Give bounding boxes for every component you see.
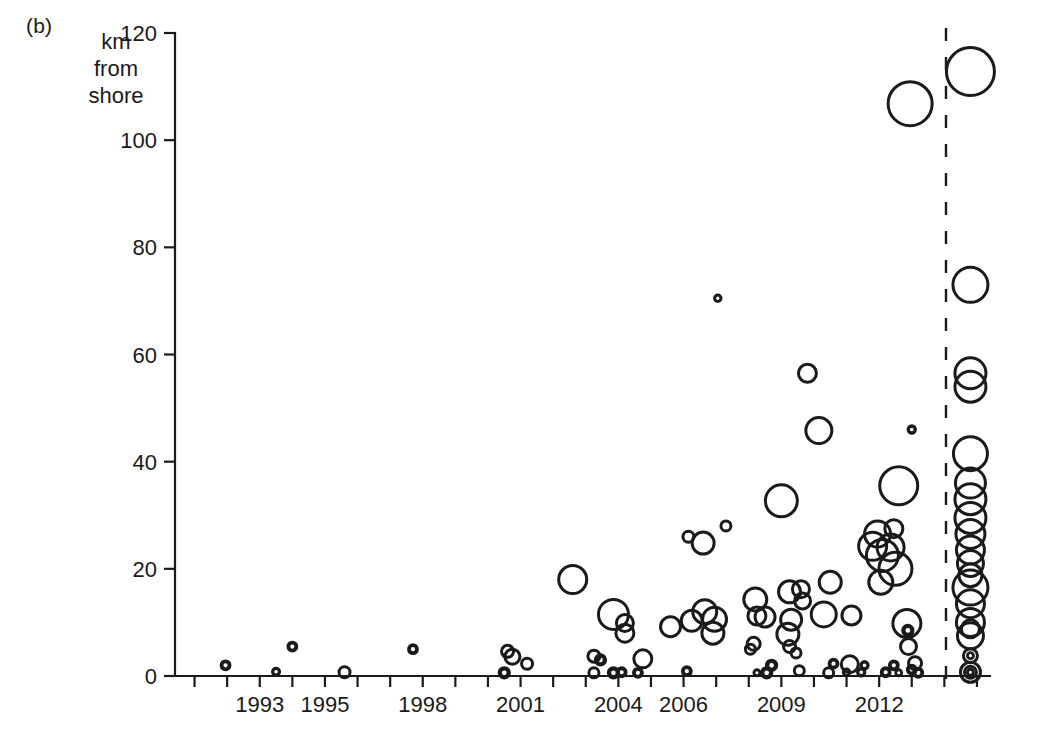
data-point-bubble [967,669,973,675]
x-tick-label: 2009 [757,692,806,717]
y-tick-label: 80 [133,235,157,260]
data-point-bubble [806,418,832,444]
data-point-bubble [811,602,836,627]
data-point-bubble [890,661,898,669]
data-point-bubble [830,660,838,668]
data-point-bubble [914,669,922,677]
x-tick-label: 1995 [300,692,349,717]
data-point-bubble [589,668,599,678]
y-tick-label: 100 [120,128,157,153]
x-tick-label: 1993 [235,692,284,717]
data-point-bubble [762,668,771,677]
x-tick-label: 2006 [659,692,708,717]
data-point-bubble [967,653,973,659]
data-point-bubble [715,295,721,301]
data-point-bubble [765,485,797,517]
data-point-bubble [824,668,834,678]
data-point-bubble [596,655,605,664]
data-point-bubble [616,624,634,642]
y-tick-label: 0 [145,664,157,689]
data-point-bubble [953,437,987,471]
data-point-bubble [955,502,986,533]
data-point-bubble [661,617,681,637]
x-tick-label: 2004 [594,692,643,717]
data-point-bubble [781,609,802,630]
data-point-bubble [946,48,994,96]
data-point-bubble [903,626,912,635]
data-point-bubble [880,467,918,505]
data-point-bubble [896,670,902,676]
data-point-bubble [901,639,917,655]
x-tick-label: 2012 [855,692,904,717]
data-point-bubble [721,521,731,531]
data-point-bubble [791,648,801,658]
y-axis-ticks: 020406080100120 [120,21,175,689]
data-point-bubble [702,622,724,644]
figure-panel-b: (b) km from shore 020406080100120 199319… [0,0,1042,729]
data-point-bubble [888,82,932,126]
data-point-bubble [955,358,986,389]
data-point-bubble [692,532,714,554]
y-tick-label: 40 [133,450,157,475]
data-point-bubble [409,645,417,653]
data-point-bubble [953,267,988,302]
data-point-bubble [798,364,816,382]
x-axis-ticks: 19931995199820012004200620092012 [195,676,977,717]
data-point-bubble [273,668,280,675]
data-point-bubble [955,371,986,402]
data-point-bubble [559,566,587,594]
data-point-bubble [779,581,801,603]
data-point-bubble [858,669,865,676]
data-point-bubble [908,426,915,433]
data-point-bubble [842,606,861,625]
x-tick-label: 2001 [496,692,545,717]
data-point-bubble [882,668,890,676]
data-point-bubble [963,649,977,663]
data-point-bubble [794,666,804,676]
data-point-bubble [288,643,296,651]
y-tick-label: 20 [133,557,157,582]
data-point-bubble [634,650,652,668]
data-point-bubble [500,668,509,677]
data-point-bubble [222,661,230,669]
data-point-bubble [522,658,533,669]
data-point-bubble [618,668,626,676]
x-tick-label: 1998 [398,692,447,717]
data-point-bubble [819,571,841,593]
y-tick-label: 60 [133,343,157,368]
data-point-bubble [754,670,760,676]
bubble-chart: 020406080100120 199319951998200120042006… [0,0,1042,729]
data-point-bubble [634,669,642,677]
data-point-bubble [683,531,694,542]
data-point-bubble [879,552,912,585]
y-tick-label: 120 [120,21,157,46]
data-point-bubble [683,667,691,675]
data-points [222,48,995,683]
